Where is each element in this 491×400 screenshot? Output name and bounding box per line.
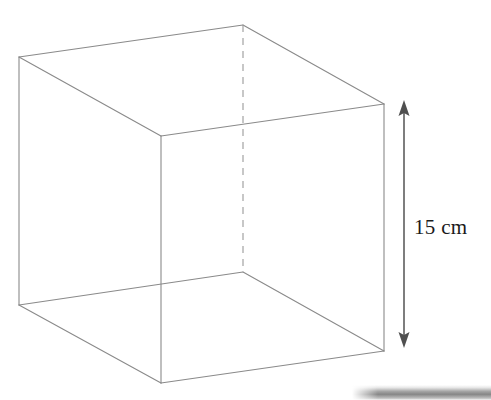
height-dimension-arrow xyxy=(399,100,410,348)
edge-bottom-back-to-bottom-right xyxy=(243,272,384,351)
scan-shadow-band xyxy=(352,385,491,400)
cube-bottom-face-edges xyxy=(19,272,384,383)
edge-top-front-to-top-left xyxy=(19,57,161,136)
figure-canvas: 15 cm xyxy=(0,0,491,400)
edge-bottom-front-to-bottom-right xyxy=(161,351,384,383)
edge-top-left-to-top-back xyxy=(19,25,243,57)
edge-bottom-left-to-bottom-front xyxy=(19,305,161,383)
cube-top-face-edges xyxy=(19,25,384,136)
edge-bottom-left-to-bottom-back xyxy=(19,272,243,305)
cube-diagram-svg xyxy=(0,0,491,400)
height-dimension-label: 15 cm xyxy=(414,215,467,240)
edge-top-back-to-top-right xyxy=(243,25,384,104)
cube-vertical-edges xyxy=(19,57,384,383)
edge-top-right-to-top-front xyxy=(161,104,384,136)
